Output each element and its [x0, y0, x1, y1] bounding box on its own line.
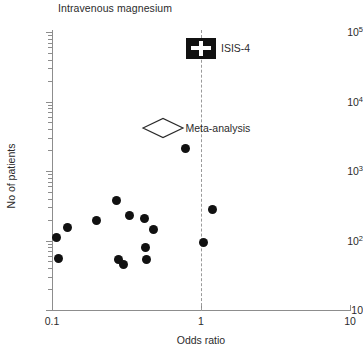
scatter-point	[199, 238, 208, 247]
y-tick-minor	[48, 186, 52, 187]
meta-analysis-label: Meta-analysis	[185, 122, 250, 134]
scatter-point	[92, 216, 101, 225]
scatter-point	[52, 233, 61, 242]
y-tick-minor	[48, 251, 52, 252]
y-tick-minor	[48, 35, 52, 36]
null-effect-reference-line	[201, 30, 202, 311]
x-axis-title: Odds ratio	[52, 334, 350, 346]
meta-analysis-diamond-icon	[141, 117, 185, 139]
y-tick-label: 103	[319, 165, 363, 177]
y-tick-major	[46, 241, 52, 242]
y-tick-label: 104	[319, 96, 363, 108]
y-tick-minor	[48, 247, 52, 248]
x-tick-label: 10	[344, 315, 356, 327]
x-tick	[350, 305, 351, 311]
y-tick-minor	[48, 207, 52, 208]
y-tick-major	[46, 171, 52, 172]
y-tick-minor	[48, 220, 52, 221]
y-tick-major	[46, 102, 52, 103]
y-tick-minor	[48, 256, 52, 257]
y-tick-minor	[48, 174, 52, 175]
scatter-point	[54, 254, 63, 263]
isis4-label: ISIS-4	[221, 42, 250, 54]
y-axis-line	[52, 30, 53, 311]
y-tick-minor	[48, 39, 52, 40]
y-tick-minor	[48, 43, 52, 44]
y-tick-minor	[48, 182, 52, 183]
y-tick-minor	[48, 268, 52, 269]
y-tick-minor	[48, 199, 52, 200]
scatter-point	[181, 144, 190, 153]
y-tick-minor	[48, 138, 52, 139]
scatter-point	[142, 255, 151, 264]
cross-horizontal-bar	[191, 46, 211, 50]
y-tick-minor	[48, 108, 52, 109]
scatter-point	[141, 243, 150, 252]
chart-title: Intravenous magnesium	[58, 2, 172, 14]
y-tick-minor	[48, 53, 52, 54]
scatter-point	[125, 211, 134, 220]
y-tick-minor	[48, 289, 52, 290]
y-axis-title: No of patients	[5, 126, 17, 226]
y-tick-minor	[48, 150, 52, 151]
isis4-marker	[186, 38, 216, 59]
y-tick-major	[46, 32, 52, 33]
y-tick-minor	[48, 261, 52, 262]
scatter-point	[119, 260, 128, 269]
y-tick-minor	[48, 60, 52, 61]
y-tick-minor	[48, 244, 52, 245]
y-tick-label: 102	[319, 235, 363, 247]
x-tick-label: 0.1	[45, 315, 60, 327]
y-tick-minor	[48, 81, 52, 82]
scatter-point	[149, 225, 158, 234]
y-tick-label: 10	[319, 304, 363, 316]
y-tick-minor	[48, 68, 52, 69]
y-tick-minor	[48, 117, 52, 118]
y-tick-minor	[48, 192, 52, 193]
y-tick-minor	[48, 277, 52, 278]
y-tick-minor	[48, 105, 52, 106]
scatter-point	[112, 196, 121, 205]
x-tick-label: 1	[198, 315, 204, 327]
y-tick-minor	[48, 47, 52, 48]
chart-figure: Intravenous magnesium 10102103104105 0.1…	[0, 0, 363, 355]
y-tick-minor	[48, 178, 52, 179]
y-tick-label: 105	[319, 26, 363, 38]
scatter-point	[140, 214, 149, 223]
scatter-point	[208, 205, 217, 214]
x-tick	[52, 305, 53, 311]
y-tick-minor	[48, 122, 52, 123]
scatter-point	[63, 223, 72, 232]
y-tick-minor	[48, 112, 52, 113]
y-tick-minor	[48, 129, 52, 130]
